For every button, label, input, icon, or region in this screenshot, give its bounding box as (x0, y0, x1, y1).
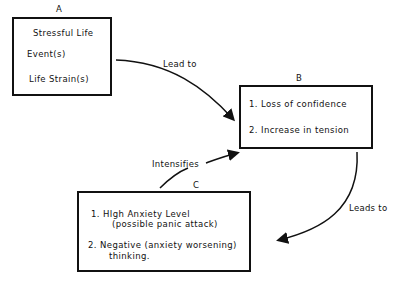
node-a-line-2: Event(s) (27, 49, 66, 59)
node-c-item-2: 2. Negative (anxiety worsening) (88, 240, 237, 250)
node-c-item-1-sub: (possible panic attack) (112, 219, 218, 229)
edge-c-to-b-tail (206, 153, 237, 163)
node-b-item-1: 1. Loss of confidence (249, 99, 347, 109)
edge-b-to-c (279, 152, 357, 240)
node-a-line-1: Stressful Life (33, 28, 94, 38)
node-a-line-3: Life Strain(s) (29, 74, 89, 84)
edge-c-to-b (160, 168, 188, 188)
node-b-label: B (296, 73, 302, 83)
edge-label-leads-to: Leads to (349, 203, 387, 213)
node-a-label: A (56, 4, 62, 14)
node-a-box: Stressful Life Event(s) Life Strain(s) (12, 17, 112, 96)
edge-label-intensifies: Intensifies (152, 159, 199, 169)
node-c-label: C (193, 180, 199, 190)
edge-label-lead-to: Lead to (163, 59, 197, 69)
node-b-item-2: 2. Increase in tension (249, 125, 349, 135)
node-c-item-1: 1. HIgh Anxiety Level (91, 209, 190, 219)
node-c-item-2-sub: thinking. (109, 251, 150, 261)
node-c-box: 1. HIgh Anxiety Level (possible panic at… (77, 191, 251, 272)
node-b-box: 1. Loss of confidence 2. Increase in ten… (239, 85, 373, 149)
